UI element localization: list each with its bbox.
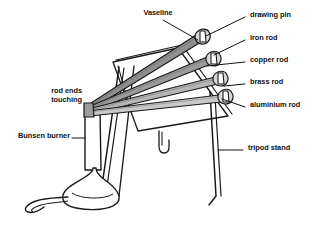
drawing-pin-1: [200, 31, 206, 42]
leader-line-brass-rod: [224, 84, 245, 86]
label-bunsen-burner: Bunsen burner: [0, 132, 70, 141]
label-brass-rod: brass rod: [250, 78, 324, 87]
drawing-pin-3: [218, 73, 224, 84]
bunsen-base: [63, 168, 119, 210]
label-drawing-pin: drawing pin: [250, 11, 324, 20]
tripod-stand-group: [92, 45, 232, 209]
rod-ends-convergence-point: [84, 103, 94, 117]
leader-line-vaseline: [163, 20, 198, 40]
tripod-hook-clamp: [159, 131, 169, 153]
bunsen-barrel: [85, 109, 101, 170]
label-vaseline: Vaseline: [128, 9, 188, 18]
label-aluminium-rod: aluminium rod: [250, 101, 324, 110]
bunsen-gas-hose-lower: [32, 201, 68, 212]
label-copper-rod: copper rod: [250, 56, 324, 65]
label-rod-ends-touching-line2: touching: [18, 96, 82, 105]
conduction-experiment-diagram: Vaseline drawing pin iron rod copper rod…: [0, 0, 325, 232]
label-iron-rod: iron rod: [250, 34, 324, 43]
label-tripod-stand: tripod stand: [248, 144, 324, 153]
leader-line-drawing-pin: [206, 17, 245, 36]
leader-line-iron-rod: [214, 40, 245, 55]
